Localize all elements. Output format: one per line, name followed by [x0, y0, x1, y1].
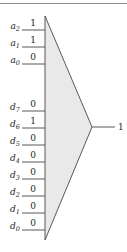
port-value-d0: 0 — [26, 219, 40, 228]
port-subscript: 1 — [16, 42, 20, 50]
port-label-d4: d4 — [4, 154, 20, 163]
output-value: 1 — [118, 123, 124, 132]
port-label-d0: d0 — [4, 222, 20, 231]
port-value-d1: 0 — [26, 202, 40, 211]
port-subscript: 0 — [16, 59, 20, 67]
port-name: d — [10, 119, 16, 129]
port-value-d6: 1 — [26, 117, 40, 126]
port-name: d — [10, 136, 16, 146]
port-name: d — [10, 153, 16, 163]
port-label-d2: d2 — [4, 188, 20, 197]
multiplexer-body-shape — [45, 16, 92, 240]
port-label-a0: a0 — [4, 56, 20, 65]
mux-figure: a21a11a00d70d61d50d40d30d20d10d00 1 — [0, 0, 127, 252]
port-value-d5: 0 — [26, 134, 40, 143]
port-subscript: 4 — [16, 157, 20, 165]
port-subscript: 2 — [16, 25, 20, 33]
port-subscript: 1 — [16, 208, 20, 216]
port-value-d7: 0 — [26, 100, 40, 109]
port-label-d6: d6 — [4, 120, 20, 129]
port-name: d — [10, 170, 16, 180]
port-subscript: 3 — [16, 174, 20, 182]
port-label-a1: a1 — [4, 39, 20, 48]
port-subscript: 6 — [16, 123, 20, 131]
port-subscript: 0 — [16, 225, 20, 233]
port-value-a1: 1 — [26, 36, 40, 45]
port-name: d — [10, 204, 16, 214]
port-name: d — [10, 221, 16, 231]
port-value-a0: 0 — [26, 53, 40, 62]
port-label-d1: d1 — [4, 205, 20, 214]
port-label-d7: d7 — [4, 103, 20, 112]
port-name: d — [10, 102, 16, 112]
port-value-d3: 0 — [26, 168, 40, 177]
port-value-a2: 1 — [26, 19, 40, 28]
port-label-d5: d5 — [4, 137, 20, 146]
port-value-d4: 0 — [26, 151, 40, 160]
port-label-d3: d3 — [4, 171, 20, 180]
port-name: d — [10, 187, 16, 197]
port-subscript: 7 — [16, 106, 20, 114]
port-label-a2: a2 — [4, 22, 20, 31]
port-subscript: 2 — [16, 191, 20, 199]
port-subscript: 5 — [16, 140, 20, 148]
port-value-d2: 0 — [26, 185, 40, 194]
